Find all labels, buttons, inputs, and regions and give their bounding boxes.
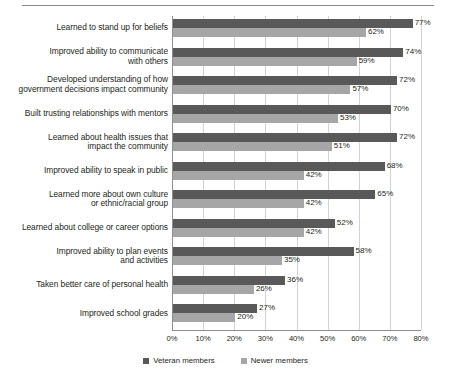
category-label-line: government decisions impact community <box>0 85 168 95</box>
bar-row: 68% <box>173 162 421 171</box>
category-label: Learned about college or career options <box>0 223 168 233</box>
bar-row: 59% <box>173 57 421 66</box>
bar-value-label: 72% <box>397 132 415 142</box>
category-label: Learned more about own cultureor ethnic/… <box>0 190 168 209</box>
bar-veteran <box>173 247 354 256</box>
bar-newer <box>173 256 282 265</box>
category-label: Learned about health issues thatimpact t… <box>0 133 168 152</box>
bar-row: 74% <box>173 48 421 57</box>
x-tick-label: 30% <box>258 334 273 343</box>
bar-value-label: 62% <box>366 27 384 37</box>
header-divider <box>22 5 434 6</box>
bar-newer <box>173 114 338 123</box>
x-tick-label: 80% <box>413 334 428 343</box>
x-axis-line <box>172 330 421 331</box>
bar-value-label: 70% <box>391 104 409 114</box>
bar-group: 70%53% <box>173 105 421 123</box>
legend-swatch-newer <box>241 358 247 364</box>
bar-value-label: 35% <box>282 255 300 265</box>
bar-group: 52%42% <box>173 219 421 237</box>
x-tick-label: 10% <box>196 334 211 343</box>
category-label: Improved ability to plan eventsand activ… <box>0 247 168 266</box>
category-label-line: Learned about college or career options <box>0 223 168 233</box>
legend-label: Newer members <box>251 356 308 365</box>
category-label: Built trusting relationships with mentor… <box>0 109 168 119</box>
bar-group: 77%62% <box>173 19 421 37</box>
category-label: Taken better care of personal health <box>0 280 168 290</box>
bar-row: 42% <box>173 228 421 237</box>
gridline-80% <box>421 16 422 330</box>
bar-row: 52% <box>173 219 421 228</box>
category-label-line: Built trusting relationships with mentor… <box>0 109 168 119</box>
category-label: Learned to stand up for beliefs <box>0 23 168 33</box>
bar-row: 42% <box>173 199 421 208</box>
legend-label: Veteran members <box>153 356 215 365</box>
bar-veteran <box>173 133 397 142</box>
bar-row: 27% <box>173 304 421 313</box>
x-tick-label: 60% <box>351 334 366 343</box>
bar-newer <box>173 285 254 294</box>
legend-item-newer[interactable]: Newer members <box>241 356 308 365</box>
bar-newer <box>173 85 350 94</box>
bar-veteran <box>173 162 385 171</box>
bar-newer <box>173 142 332 151</box>
bar-row: 53% <box>173 114 421 123</box>
bar-row: 36% <box>173 276 421 285</box>
plot-area: 77%62%74%59%72%57%70%53%72%51%68%42%65%4… <box>172 16 421 330</box>
category-label: Improved ability to communicatewith othe… <box>0 47 168 66</box>
x-tick-label: 70% <box>382 334 397 343</box>
bar-value-label: 36% <box>285 275 303 285</box>
bar-group: 72%57% <box>173 76 421 94</box>
category-label: Improved school grades <box>0 309 168 319</box>
bar-group: 72%51% <box>173 133 421 151</box>
bar-group: 58%35% <box>173 247 421 265</box>
category-label: Developed understanding of howgovernment… <box>0 75 168 94</box>
bar-value-label: 74% <box>403 47 421 57</box>
bar-value-label: 52% <box>335 218 353 228</box>
bar-value-label: 77% <box>413 18 431 28</box>
bar-row: 42% <box>173 171 421 180</box>
bar-row: 26% <box>173 285 421 294</box>
bar-value-label: 42% <box>304 170 322 180</box>
bar-row: 57% <box>173 85 421 94</box>
bar-newer <box>173 313 235 322</box>
bar-value-label: 42% <box>304 198 322 208</box>
bar-newer <box>173 57 357 66</box>
bar-row: 20% <box>173 313 421 322</box>
bar-group: 27%20% <box>173 304 421 322</box>
bar-value-label: 42% <box>304 227 322 237</box>
legend-item-veteran[interactable]: Veteran members <box>143 356 215 365</box>
x-tick-label: 50% <box>320 334 335 343</box>
legend-swatch-veteran <box>143 358 149 364</box>
x-tick-label: 0% <box>167 334 178 343</box>
bar-group: 65%42% <box>173 190 421 208</box>
category-label-line: Improved ability to speak in public <box>0 166 168 176</box>
bar-newer <box>173 171 304 180</box>
bar-value-label: 65% <box>375 189 393 199</box>
category-label-line: impact the community <box>0 142 168 152</box>
category-label-line: and activities <box>0 256 168 266</box>
bar-newer <box>173 28 366 37</box>
category-label-line: with others <box>0 57 168 67</box>
bar-row: 65% <box>173 190 421 199</box>
bar-value-label: 58% <box>354 246 372 256</box>
bar-group: 74%59% <box>173 48 421 66</box>
bar-value-label: 53% <box>338 113 356 123</box>
bar-value-label: 68% <box>385 161 403 171</box>
bar-value-label: 51% <box>332 141 350 151</box>
bar-value-label: 20% <box>235 312 253 322</box>
category-label-line: Learned to stand up for beliefs <box>0 23 168 33</box>
bar-row: 51% <box>173 142 421 151</box>
bar-row: 62% <box>173 28 421 37</box>
bar-row: 35% <box>173 256 421 265</box>
chart-legend: Veteran membersNewer members <box>0 356 451 365</box>
x-tick-label: 20% <box>227 334 242 343</box>
bar-row: 72% <box>173 133 421 142</box>
bar-veteran <box>173 190 375 199</box>
bar-group: 68%42% <box>173 162 421 180</box>
bar-row: 72% <box>173 76 421 85</box>
chart-figure: 77%62%74%59%72%57%70%53%72%51%68%42%65%4… <box>0 0 451 376</box>
bar-value-label: 27% <box>257 303 275 313</box>
category-label-line: or ethnic/racial group <box>0 199 168 209</box>
category-label-line: Improved school grades <box>0 309 168 319</box>
